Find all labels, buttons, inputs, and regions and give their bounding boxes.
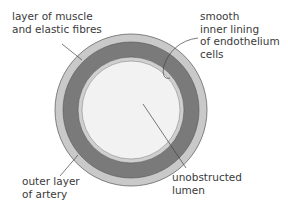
label-outer-layer: outer layer of artery bbox=[22, 175, 80, 200]
leader-outer bbox=[60, 155, 78, 176]
label-muscle-layer: layer of muscle and elastic fibres bbox=[12, 10, 102, 35]
label-lumen: unobstructed lumen bbox=[172, 171, 242, 196]
leader-muscle bbox=[62, 44, 82, 60]
lumen bbox=[82, 61, 180, 159]
label-inner-lining: smooth inner lining of endothelium cells bbox=[200, 10, 280, 60]
